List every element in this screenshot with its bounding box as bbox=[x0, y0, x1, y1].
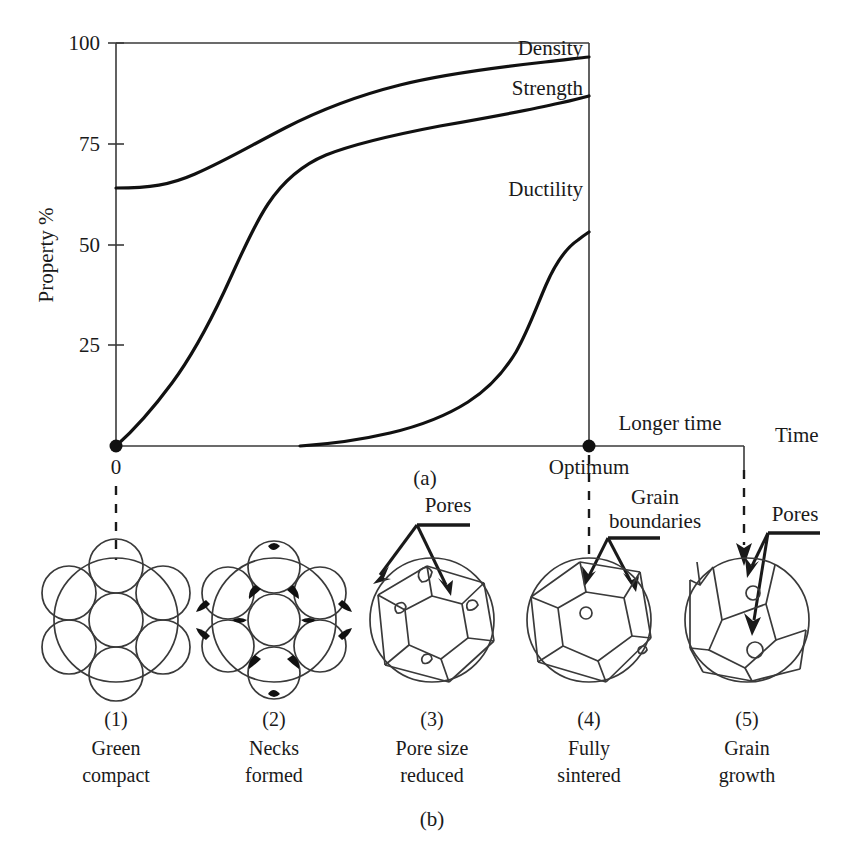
stage1-particle-4 bbox=[89, 647, 143, 701]
panel-b-caption: (b) bbox=[420, 807, 445, 831]
stage4-pores bbox=[580, 607, 647, 654]
stage-5-number: (5) bbox=[735, 708, 758, 731]
neck-7 bbox=[249, 585, 261, 599]
curve-label-density: Density bbox=[518, 36, 584, 60]
stage1-particle-center bbox=[89, 593, 143, 647]
stage-4-number: (4) bbox=[577, 708, 600, 731]
stage4-gb-1 bbox=[558, 592, 632, 661]
x-axis-title: Time bbox=[775, 423, 819, 447]
curve-label-ductility: Ductility bbox=[508, 177, 583, 201]
neck-4 bbox=[268, 690, 280, 697]
annotation-grain-boundaries-line1: Grain bbox=[631, 485, 679, 509]
panel-a-caption: (a) bbox=[413, 466, 436, 490]
stage-4-line1: Fully bbox=[568, 737, 610, 760]
stage1-particle-2 bbox=[136, 566, 190, 620]
y-tick-label-100: 100 bbox=[69, 31, 101, 55]
stage-5-line2: growth bbox=[719, 764, 776, 787]
stage-1-line2: compact bbox=[82, 764, 150, 787]
stage2-particle-6 bbox=[202, 567, 254, 619]
annotation-grain-boundaries-line2: boundaries bbox=[609, 509, 701, 533]
stage2-particle-5 bbox=[202, 620, 254, 672]
y-tick-label-50: 50 bbox=[79, 233, 100, 257]
curve-strength bbox=[116, 96, 589, 446]
stage2-particle-center bbox=[248, 594, 300, 646]
stage-2-line1: Necks bbox=[249, 737, 299, 759]
micrograph-stage-3 bbox=[370, 558, 494, 682]
stage-3-number: (3) bbox=[420, 708, 443, 731]
y-tick-label-75: 75 bbox=[79, 132, 100, 156]
x-origin-label: 0 bbox=[111, 455, 122, 479]
stage3-pores bbox=[395, 567, 478, 663]
neck-8 bbox=[268, 543, 280, 550]
grain-boundaries-arrowhead-b bbox=[623, 573, 639, 592]
figure-canvas: 100 75 50 25 Property % 0 Optimum Longer… bbox=[0, 0, 858, 859]
stage3-pore-4 bbox=[422, 654, 432, 663]
curve-label-strength: Strength bbox=[512, 76, 584, 100]
stage-2-line2: formed bbox=[245, 764, 303, 786]
curve-ductility bbox=[300, 232, 589, 446]
y-tick-label-25: 25 bbox=[79, 333, 100, 357]
stage5-gb-3 bbox=[690, 562, 713, 585]
stage-1-line1: Green bbox=[92, 737, 141, 759]
annotation-group: Pores Grain boundaries Pores bbox=[373, 485, 820, 636]
stage2-particle-2 bbox=[294, 567, 346, 619]
stage5-pore-2 bbox=[747, 642, 763, 658]
sintering-figure: 100 75 50 25 Property % 0 Optimum Longer… bbox=[0, 0, 858, 859]
chart-panel: 100 75 50 25 Property % 0 Optimum Longer… bbox=[34, 31, 819, 490]
stage3-pore-3 bbox=[467, 600, 478, 610]
pores-right-arrowhead-a bbox=[745, 557, 759, 578]
dashed-connector-arrowhead bbox=[736, 543, 752, 566]
stage-3-line2: reduced bbox=[400, 764, 463, 786]
pores-right-arrowhead-b bbox=[744, 613, 761, 636]
stage-3-line1: Pore size bbox=[396, 737, 469, 759]
stage4-pore-1 bbox=[580, 607, 592, 619]
stage-2-number: (2) bbox=[262, 708, 285, 731]
stage-captions: (1) Green compact (2) Necks formed (3) P… bbox=[82, 708, 775, 787]
annotation-pores-right: Pores bbox=[772, 502, 819, 526]
x-longer-time-label: Longer time bbox=[618, 411, 721, 435]
stage1-particle-3 bbox=[136, 620, 190, 674]
stage-1-number: (1) bbox=[104, 708, 127, 731]
stage3-grain-network bbox=[378, 566, 494, 682]
micrograph-stage-1 bbox=[42, 539, 190, 701]
stage2-particle-3 bbox=[294, 620, 346, 672]
annotation-pores-left: Pores bbox=[425, 493, 472, 517]
micrograph-stage-2 bbox=[196, 541, 352, 699]
stage3-gb-1 bbox=[405, 596, 468, 659]
grain-boundaries-leader-b bbox=[608, 538, 630, 580]
stage1-particle-6 bbox=[42, 566, 96, 620]
y-axis-title: Property % bbox=[34, 207, 58, 302]
stage2-necks bbox=[196, 543, 352, 697]
optimum-marker bbox=[583, 440, 596, 453]
stage3-gb-3 bbox=[378, 566, 494, 682]
neck-1 bbox=[287, 585, 299, 599]
stage5-gb-1 bbox=[709, 604, 776, 668]
stage1-particle-5 bbox=[42, 620, 96, 674]
grain-boundaries-leader-a bbox=[589, 538, 608, 576]
stage-4-line2: sintered bbox=[557, 764, 620, 786]
stage3-boundary bbox=[370, 558, 494, 682]
stage3-gb-2 bbox=[378, 566, 494, 682]
stage-5-line1: Grain bbox=[724, 737, 770, 759]
